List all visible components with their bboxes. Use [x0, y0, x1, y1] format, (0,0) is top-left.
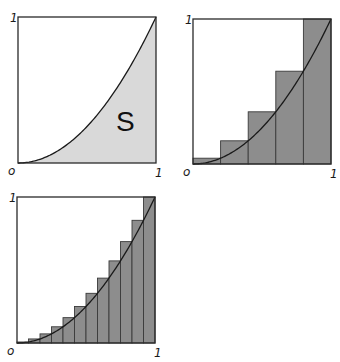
rectangle-5 [63, 318, 75, 343]
x-tick-1: 1 [330, 167, 338, 181]
rectangles [193, 19, 331, 164]
panel-upper-sum-n12: 1 o 1 [7, 191, 162, 360]
x-tick-1: 1 [155, 166, 163, 180]
rectangle-9 [109, 261, 121, 343]
rectangle-5 [303, 19, 331, 164]
shaded-region-S [18, 17, 156, 163]
rectangle-4 [276, 71, 304, 164]
y-tick-1: 1 [9, 191, 17, 205]
region-label-S: S [116, 106, 135, 137]
rectangle-10 [121, 242, 133, 343]
x-tick-1: 1 [154, 346, 162, 360]
rectangles [17, 197, 155, 343]
figure: S 1 o 1 1 o 1 1 o 1 [0, 0, 340, 362]
panel-upper-sum-n5: 1 o 1 [183, 13, 338, 181]
y-tick-1: 1 [185, 13, 193, 27]
origin-label: o [183, 165, 190, 179]
rectangle-4 [52, 327, 64, 343]
rectangle-12 [144, 197, 156, 343]
y-tick-1: 1 [10, 11, 18, 25]
origin-label: o [8, 164, 15, 178]
panel-area-under-curve: S 1 o 1 [8, 11, 163, 180]
rectangle-8 [98, 278, 110, 343]
origin-label: o [7, 344, 14, 358]
